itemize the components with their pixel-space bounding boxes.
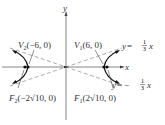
asymptote-negative-label: y=− 1 3 x	[111, 78, 151, 91]
svg-text:3: 3	[141, 85, 144, 91]
arrow-icon	[115, 50, 120, 54]
leader-line	[18, 70, 24, 88]
y-axis-label: y	[62, 3, 67, 13]
vertex-v2-label: V2(−6, 0)	[18, 40, 51, 51]
x-axis-label: x	[124, 62, 129, 72]
leader-line	[29, 50, 34, 64]
focus-f1-point	[105, 65, 108, 68]
arrow-icon	[12, 50, 17, 54]
svg-text:1: 1	[143, 39, 146, 45]
vertex-v1-point	[102, 65, 105, 68]
vertex-v1-label: V1(6, 0)	[74, 40, 102, 51]
focus-f2-point	[23, 65, 26, 68]
focus-f2-label: F2(−2√10, 0)	[8, 93, 56, 104]
arrow-icon	[12, 80, 17, 84]
svg-text:1: 1	[141, 78, 144, 84]
vertex-v2-point	[26, 65, 29, 68]
svg-text:x: x	[148, 41, 153, 51]
asymptote-positive-label: y= 1 3 x	[121, 39, 153, 52]
svg-text:x: x	[146, 80, 151, 90]
leader-line	[95, 50, 103, 64]
svg-text:3: 3	[143, 46, 146, 52]
focus-f1-label: F1(2√10, 0)	[73, 93, 116, 104]
svg-text:y=−: y=−	[111, 80, 129, 90]
hyperbola-diagram: y x V2(−6, 0) V1(6, 0) F2(−2√10, 0) F1(2…	[0, 0, 165, 125]
svg-text:y=: y=	[121, 41, 132, 51]
